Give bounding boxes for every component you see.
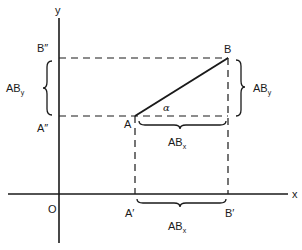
component-aby-right: ABy (253, 82, 272, 97)
origin-label: O (48, 203, 57, 215)
component-abx-upper: ABx (168, 136, 187, 150)
brace-left-y (43, 61, 52, 115)
point-a-double-prime-label: A″ (37, 122, 48, 134)
point-b-prime-label: B′ (225, 207, 234, 219)
vector-ab (135, 58, 228, 116)
brace-upper-x (139, 121, 226, 129)
y-axis-label: y (55, 4, 61, 16)
brace-right-y (236, 60, 245, 116)
point-b-label: B (224, 43, 231, 55)
angle-alpha-label: α (163, 102, 170, 113)
vector-diagram: y x O B A B″ A″ A′ B′ α ABy ABy ABx ABx (0, 0, 302, 250)
x-axis-label: x (292, 188, 298, 200)
component-abx-lower: ABx (168, 220, 187, 234)
brace-lower-x (137, 199, 226, 207)
point-a-label: A (124, 118, 132, 130)
point-a-prime-label: A′ (125, 207, 134, 219)
point-b-double-prime-label: B″ (37, 42, 48, 54)
component-aby-left: ABy (6, 82, 25, 97)
